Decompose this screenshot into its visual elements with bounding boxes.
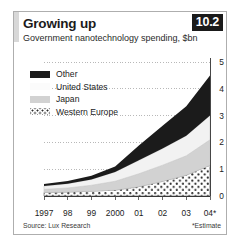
chart-legend: Other United States Japan Western Europe [30, 68, 118, 118]
dotted-swatch-icon [30, 108, 50, 115]
header-accent-bar [14, 12, 19, 42]
y-tick-label: 4 [219, 84, 224, 94]
grey-swatch-icon [30, 96, 50, 103]
y-axis-labels: 012345 [212, 52, 224, 204]
x-tick-label: 2000 [106, 208, 125, 218]
legend-label: Western Europe [56, 107, 118, 117]
y-tick-label: 5 [219, 57, 224, 67]
x-tick-label: 01 [134, 208, 143, 218]
legend-label: Japan [56, 94, 79, 104]
figure-number-badge: 10.2 [192, 14, 223, 31]
y-tick-label: 2 [219, 137, 224, 147]
y-tick-label: 1 [219, 164, 224, 174]
legend-item-japan: Japan [30, 93, 118, 106]
x-tick-label: 98 [63, 208, 72, 218]
legend-label: Other [56, 69, 78, 79]
y-tick-label: 0 [219, 191, 224, 201]
y-tick-label: 3 [219, 111, 224, 121]
x-tick-label: 1997 [35, 208, 54, 218]
white-swatch-icon [30, 83, 50, 90]
legend-item-united-states: United States [30, 81, 118, 94]
x-tick-label: 04* [204, 208, 217, 218]
legend-item-other: Other [30, 68, 118, 81]
figure-footer: Source: Lux Research *Estimate [23, 222, 221, 229]
x-tick-label: 02 [158, 208, 167, 218]
legend-label: United States [56, 82, 108, 92]
figure-panel: Growing up Government nanotechnology spe… [13, 11, 227, 235]
source-text: Source: Lux Research [23, 222, 90, 229]
x-tick-label: 99 [87, 208, 96, 218]
x-tick-label: 03 [182, 208, 191, 218]
legend-item-western-europe: Western Europe [30, 106, 118, 119]
x-axis-labels: 19979899200001020304* [14, 208, 226, 220]
estimate-note: *Estimate [192, 222, 221, 229]
black-swatch-icon [30, 71, 50, 78]
chart-subtitle: Government nanotechnology spending, $bn [23, 33, 222, 44]
